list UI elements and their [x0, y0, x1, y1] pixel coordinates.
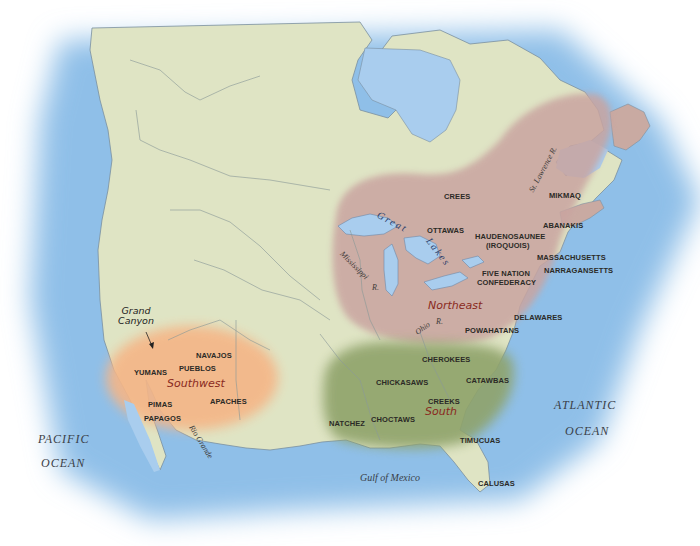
label-canyon: Canyon — [118, 316, 154, 326]
label-grand-canyon: Grand Canyon — [118, 306, 154, 326]
label-haudenosaunee: HAUDENOSAUNEE — [475, 233, 545, 241]
label-apaches: APACHES — [210, 398, 247, 406]
label-pacific: PACIFIC — [38, 433, 89, 445]
label-powahatans: POWAHATANS — [465, 327, 519, 335]
label-delawares: DELAWARES — [514, 314, 562, 322]
label-yumans: YUMANS — [134, 369, 167, 377]
label-choctaws: CHOCTAWS — [371, 416, 415, 424]
label-navajos: NAVAJOS — [196, 352, 232, 360]
label-atlantic-ocean: OCEAN — [565, 425, 609, 437]
label-abanakis: ABANAKIS — [543, 222, 583, 230]
label-cherokees: CHEROKEES — [422, 356, 470, 364]
region-label-southwest: Southwest — [167, 378, 225, 389]
label-catawbas: CATAWBAS — [466, 377, 509, 385]
label-ottawas: OTTAWAS — [427, 227, 464, 235]
label-pacific-ocean: OCEAN — [41, 457, 85, 469]
label-five-nation: FIVE NATION — [482, 270, 530, 278]
label-chickasaws: CHICKASAWS — [376, 379, 428, 387]
label-massachusetts: MASSACHUSETTS — [537, 254, 606, 262]
label-mikmaq: MIKMAQ — [549, 192, 581, 200]
label-narragansetts: NARRAGANSETTS — [544, 267, 613, 275]
label-gulf-of-mexico: Gulf of Mexico — [360, 473, 420, 483]
label-atlantic: ATLANTIC — [554, 399, 616, 411]
label-timucuas: TIMUCUAS — [460, 437, 500, 445]
label-confederacy: CONFEDERACY — [477, 279, 536, 287]
label-iroquois: (IROQUOIS) — [486, 242, 530, 250]
label-calusas: CALUSAS — [478, 480, 515, 488]
region-label-south: South — [425, 406, 457, 417]
label-papagos: PAPAGOS — [144, 415, 181, 423]
label-pueblos: PUEBLOS — [179, 365, 216, 373]
label-mississippi-r: R. — [372, 284, 379, 292]
label-pimas: PIMAS — [148, 401, 172, 409]
label-crees: CREES — [444, 193, 470, 201]
label-ohio-r: R. — [436, 318, 443, 326]
region-label-northeast: Northeast — [428, 300, 482, 311]
label-natchez: NATCHEZ — [329, 420, 365, 428]
